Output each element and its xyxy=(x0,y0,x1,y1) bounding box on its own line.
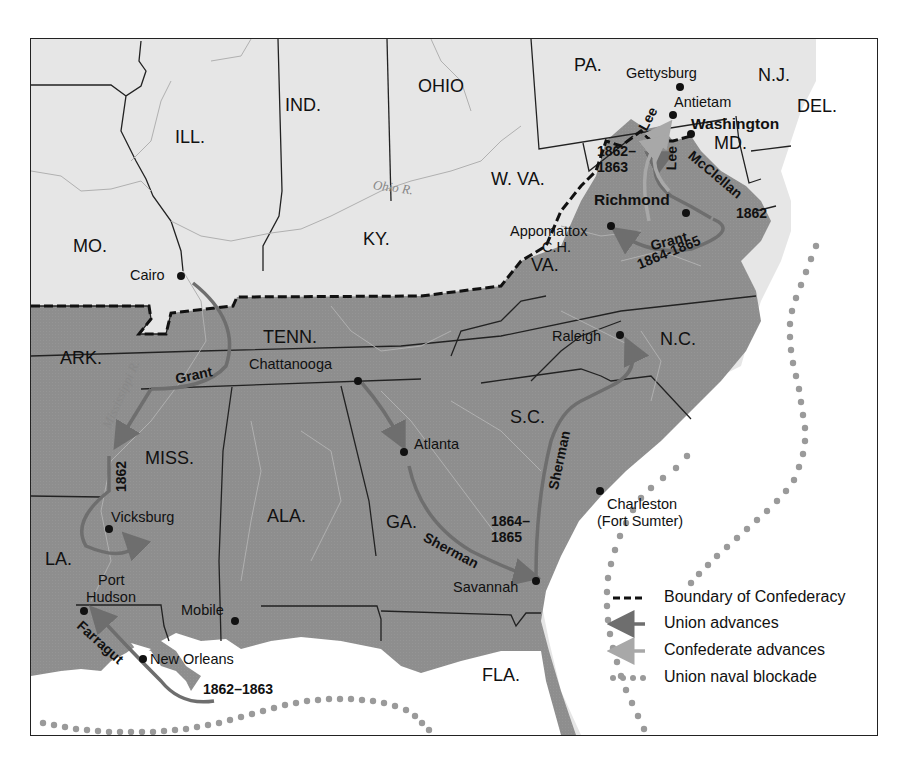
legend-label-naval-blockade: Union naval blockade xyxy=(664,668,817,686)
city-marker-chattanooga xyxy=(354,377,362,385)
state-label-sc: S.C. xyxy=(510,408,545,426)
city-marker-cairo xyxy=(177,272,185,280)
campaign-label-mcclellan-year: 1862 xyxy=(736,206,767,220)
state-label-ind: IND. xyxy=(285,96,321,114)
city-marker-savannah xyxy=(532,577,540,585)
legend-item-naval-blockade: Union naval blockade xyxy=(606,667,817,687)
city-label-vicksburg: Vicksburg xyxy=(111,510,174,525)
state-label-md: MD. xyxy=(714,134,747,152)
city-label-port: Port xyxy=(98,573,125,588)
state-label-pa: PA. xyxy=(574,56,602,74)
city-label-raleigh: Raleigh xyxy=(552,329,601,344)
state-label-miss: MISS. xyxy=(145,449,194,467)
city-marker-antietam xyxy=(669,111,677,119)
city-label-chattanooga: Chattanooga xyxy=(249,357,332,372)
city-label-savannah: Savannah xyxy=(453,580,518,595)
state-label-ohio: OHIO xyxy=(418,77,464,95)
dashed-line-icon xyxy=(606,587,654,607)
city-marker-atlanta xyxy=(400,448,408,456)
campaign-label-lee-years-2: 1863 xyxy=(597,160,628,174)
city-marker-vicksburg xyxy=(105,525,113,533)
city-marker-appomattox xyxy=(607,222,615,230)
city-label-atlanta: Atlanta xyxy=(414,437,459,452)
state-label-la: LA. xyxy=(45,550,72,568)
city-marker-mobile xyxy=(231,617,239,625)
state-label-ky: KY. xyxy=(363,230,390,248)
campaign-label-sherman-years-2: 1865 xyxy=(491,530,522,544)
legend-label-confederate-advances: Confederate advances xyxy=(664,641,825,659)
city-marker-new-orleans xyxy=(139,655,147,663)
campaign-label-farragut-years: 1862–1863 xyxy=(203,682,273,696)
confederate-arrow-icon xyxy=(606,640,654,660)
city-label-antietam: Antietam xyxy=(674,95,731,110)
city-marker-gettysburg xyxy=(676,83,684,91)
union-arrow-icon xyxy=(606,613,654,633)
city-marker-richmond xyxy=(682,209,690,217)
city-label-hudson: Hudson xyxy=(86,590,136,605)
state-label-ark: ARK. xyxy=(60,349,102,367)
state-label-del: DEL. xyxy=(797,97,837,115)
city-label-charleston: Charleston xyxy=(607,497,677,512)
state-label-wva: W. VA. xyxy=(491,170,545,188)
city-label-washington: Washington xyxy=(691,116,779,132)
city-marker-raleigh xyxy=(616,331,624,339)
city-label-gettysburg: Gettysburg xyxy=(626,66,697,81)
city-label-appomattox-ch: C.H. xyxy=(542,240,571,255)
city-marker-charleston xyxy=(596,487,604,495)
legend-item-union-advances: Union advances xyxy=(606,613,779,633)
campaign-label-lee-years-1: 1862– xyxy=(597,144,636,158)
city-marker-port-hudson xyxy=(80,607,88,615)
city-label-new-orleans: New Orleans xyxy=(150,652,234,667)
legend-item-confederate-advances: Confederate advances xyxy=(606,640,825,660)
campaign-label-lee-2: Lee xyxy=(664,146,679,171)
state-label-nj: N.J. xyxy=(758,66,790,84)
city-label-mobile: Mobile xyxy=(181,603,224,618)
state-label-va: VA. xyxy=(531,256,559,274)
state-label-ala: ALA. xyxy=(267,507,306,525)
campaign-label-grant-west-year: 1862 xyxy=(114,461,128,492)
state-label-ga: GA. xyxy=(386,513,417,531)
state-label-tenn: TENN. xyxy=(263,328,317,346)
city-label-appomattox: Appomattox xyxy=(510,224,587,239)
city-label-cairo: Cairo xyxy=(130,268,165,283)
state-label-mo: MO. xyxy=(73,237,107,255)
legend-item-boundary: Boundary of Confederacy xyxy=(606,587,845,607)
state-label-fla: FLA. xyxy=(482,666,520,684)
legend-label-boundary: Boundary of Confederacy xyxy=(664,588,845,606)
city-label-fort-sumter: (Fort Sumter) xyxy=(597,514,683,529)
state-label-ill: ILL. xyxy=(175,128,205,146)
city-label-richmond: Richmond xyxy=(594,192,670,208)
campaign-label-sherman-years-1: 1864– xyxy=(491,514,530,528)
state-label-nc: N.C. xyxy=(660,330,696,348)
legend-label-union-advances: Union advances xyxy=(664,614,779,632)
dotted-line-icon xyxy=(606,667,654,687)
